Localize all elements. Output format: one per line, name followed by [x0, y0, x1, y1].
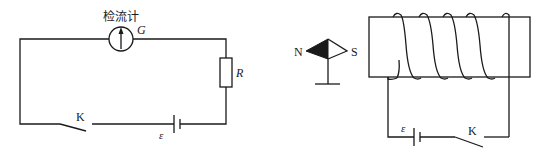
left-circuit: 检流计 G R K ε	[20, 9, 244, 141]
resistor-label: R	[235, 66, 244, 80]
emf-label: ε	[401, 122, 406, 134]
left-wire-right-lower	[180, 87, 226, 124]
switch-icon	[60, 124, 86, 131]
switch-label: K	[76, 110, 85, 124]
solenoid-core	[369, 17, 530, 77]
diagram-canvas: 检流计 G R K ε N S	[0, 0, 546, 159]
compass-needle-icon	[306, 39, 347, 84]
compass-south-label: S	[351, 45, 358, 59]
emf-label: ε	[159, 129, 164, 141]
galvanometer-label: 检流计	[103, 9, 139, 24]
resistor-icon	[220, 58, 232, 87]
battery-icon	[174, 115, 180, 133]
compass-north-label: N	[294, 45, 303, 59]
left-wire-top-right	[133, 39, 226, 58]
switch-label: K	[468, 124, 477, 138]
solenoid-coil-icon	[388, 13, 509, 137]
switch-icon	[455, 137, 483, 147]
galvanometer-symbol: G	[137, 23, 146, 37]
left-wire-top-left	[20, 39, 109, 124]
battery-icon	[414, 128, 420, 146]
galvanometer-icon	[109, 27, 133, 51]
right-circuit: N S ε K	[294, 13, 530, 147]
